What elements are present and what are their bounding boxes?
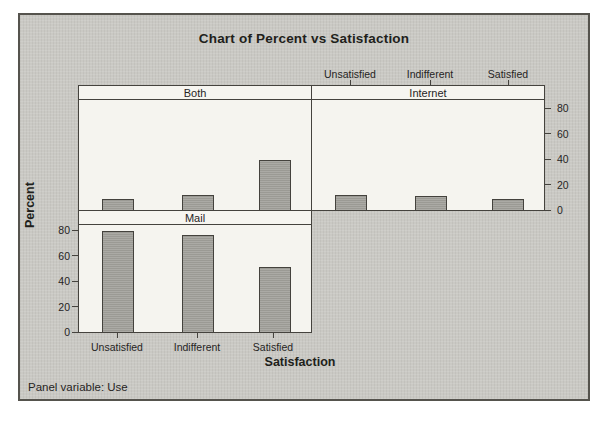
bottom-category-label-indifferent: Indifferent [155, 341, 239, 353]
right-axis-tick-label-80: 80 [557, 102, 569, 114]
top-category-tick-indifferent [430, 80, 431, 85]
right-axis-tick-60 [545, 133, 551, 134]
right-axis-tick-0 [545, 210, 551, 211]
left-axis-tick-40 [72, 281, 78, 282]
chart-figure: Chart of Percent vs Satisfaction Unsatis… [18, 13, 590, 401]
bottom-category-tick-indifferent [197, 333, 198, 338]
panel-header-mail: Mail [78, 210, 312, 225]
plot-area-both [79, 100, 311, 210]
top-category-tick-unsatisfied [350, 80, 351, 85]
right-axis-tick-label-20: 20 [557, 179, 569, 191]
bar-internet-satisfied [492, 199, 524, 210]
panel-both [78, 99, 312, 211]
top-category-label-satisfied: Satisfied [466, 68, 550, 80]
right-axis-tick-80 [545, 108, 551, 109]
left-axis-tick-label-60: 60 [48, 250, 70, 262]
bar-mail-unsatisfied [102, 231, 134, 332]
panel-header-internet: Internet [311, 85, 545, 100]
y-axis-title: Percent [22, 158, 38, 252]
bottom-category-label-unsatisfied: Unsatisfied [75, 341, 159, 353]
right-axis-tick-20 [545, 184, 551, 185]
top-category-label-unsatisfied: Unsatisfied [308, 68, 392, 80]
plot-area-internet [312, 100, 544, 210]
bar-mail-indifferent [182, 235, 214, 332]
panel-header-both: Both [78, 85, 312, 100]
bottom-category-tick-satisfied [273, 333, 274, 338]
bar-internet-indifferent [415, 196, 447, 210]
left-axis-tick-80 [72, 230, 78, 231]
left-axis-tick-60 [72, 255, 78, 256]
left-axis-tick-0 [72, 332, 78, 333]
top-category-label-indifferent: Indifferent [388, 68, 472, 80]
bar-both-satisfied [259, 160, 291, 210]
bottom-category-tick-unsatisfied [117, 333, 118, 338]
bar-both-indifferent [182, 195, 214, 210]
panel-variable-footnote: Panel variable: Use [28, 381, 128, 393]
bar-both-unsatisfied [102, 199, 134, 210]
right-axis-tick-40 [545, 159, 551, 160]
left-axis-tick-label-20: 20 [48, 301, 70, 313]
bottom-category-label-satisfied: Satisfied [231, 341, 315, 353]
left-axis-tick-label-80: 80 [48, 224, 70, 236]
plot-area-mail [79, 225, 311, 332]
x-axis-title: Satisfaction [20, 355, 580, 369]
left-axis-tick-label-40: 40 [48, 275, 70, 287]
panel-mail [78, 224, 312, 333]
panel-internet [311, 99, 545, 211]
bar-internet-unsatisfied [335, 195, 367, 210]
bar-mail-satisfied [259, 267, 291, 332]
right-axis-tick-label-60: 60 [557, 128, 569, 140]
right-axis-tick-label-40: 40 [557, 153, 569, 165]
right-axis-tick-label-0: 0 [557, 204, 563, 216]
top-category-tick-satisfied [508, 80, 509, 85]
chart-title: Chart of Percent vs Satisfaction [20, 31, 588, 46]
left-axis-tick-20 [72, 306, 78, 307]
left-axis-tick-label-0: 0 [48, 326, 70, 338]
